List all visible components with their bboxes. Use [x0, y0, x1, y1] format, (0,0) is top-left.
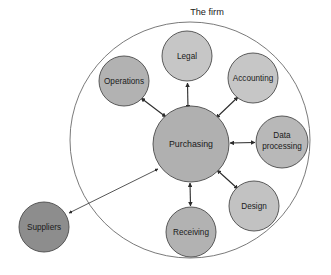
firm-boundary-label: The firm: [190, 7, 224, 17]
connector-purchasing-receiving: [190, 183, 191, 206]
node-operations[interactable]: Operations: [99, 56, 149, 106]
connector-purchasing-accounting: [216, 97, 238, 118]
node-circle-accounting[interactable]: [228, 53, 278, 103]
node-circle-receiving[interactable]: [166, 207, 216, 257]
node-suppliers[interactable]: Suppliers: [19, 202, 69, 252]
firm-purchasing-relationship-diagram: The firm Legal Operations Accounting Dat…: [0, 0, 331, 275]
node-design[interactable]: Design: [229, 181, 279, 231]
node-receiving[interactable]: Receiving: [166, 207, 216, 257]
node-accounting[interactable]: Accounting: [228, 53, 278, 103]
connector-purchasing-design: [217, 170, 238, 189]
connector-purchasing-legal: [188, 83, 189, 109]
node-purchasing[interactable]: Purchasing: [153, 106, 229, 182]
connector-purchasing-operations: [141, 98, 166, 117]
node-circle-legal[interactable]: [162, 31, 212, 81]
node-circle-purchasing[interactable]: [153, 106, 229, 182]
node-circle-design[interactable]: [229, 181, 279, 231]
node-legal[interactable]: Legal: [162, 31, 212, 81]
node-data-processing[interactable]: Data processing: [256, 116, 308, 168]
diagram-canvas: The firm Legal Operations Accounting Dat…: [0, 0, 331, 275]
connector-purchasing-suppliers: [69, 169, 158, 213]
connector-purchasing-data-processing: [230, 143, 255, 144]
node-circle-operations[interactable]: [99, 56, 149, 106]
node-circle-suppliers[interactable]: [19, 202, 69, 252]
node-circle-data-processing[interactable]: [256, 116, 308, 168]
